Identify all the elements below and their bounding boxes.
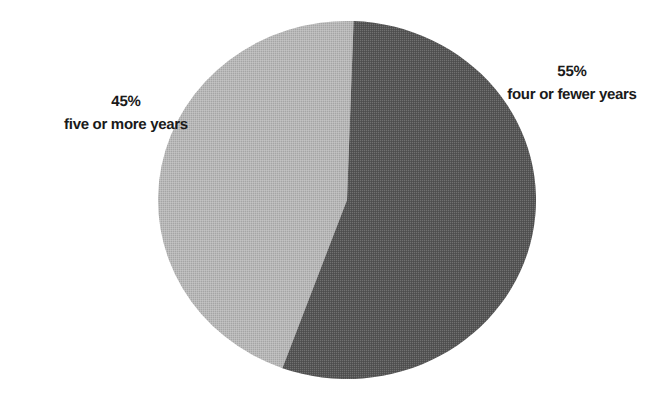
pie-texture-overlay — [158, 21, 536, 379]
pie-label-four-or-fewer-years: 55% four or fewer years — [496, 64, 648, 102]
pie-chart-figure: 45% five or more years 55% four or fewer… — [0, 0, 671, 404]
pie-label-four-or-fewer-years-category: four or fewer years — [496, 87, 648, 102]
pie-label-five-or-more-years-category: five or more years — [64, 117, 188, 132]
pie-label-five-or-more-years: 45% five or more years — [64, 94, 188, 132]
pie-chart-graphic — [0, 0, 671, 404]
pie-label-five-or-more-years-percent: 45% — [64, 94, 188, 109]
pie-label-four-or-fewer-years-percent: 55% — [496, 64, 648, 79]
